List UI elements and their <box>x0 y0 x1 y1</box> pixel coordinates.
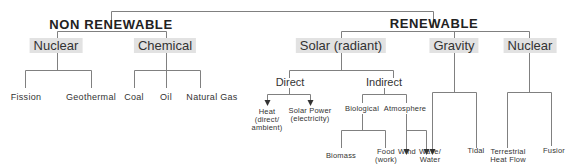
leaf-natural-gas: Natural Gas <box>186 93 237 102</box>
category-gravity: Gravity <box>429 38 478 53</box>
category-nuclear-nonrenewable: Nuclear <box>30 38 83 53</box>
leaf-fusion: Fusior <box>543 147 565 155</box>
leaf-coal: Coal <box>124 93 144 102</box>
leaf-tidal: Tidal <box>468 147 485 155</box>
leaf-heat: Heat (direct/ ambient) <box>252 108 283 132</box>
energy-sources-diagram: NON RENEWABLE RENEWABLE Nuclear Chemical… <box>0 0 582 166</box>
leaf-solar-power: Solar Power (electricity) <box>288 107 331 123</box>
category-nuclear-renewable: Nuclear <box>504 38 557 53</box>
sub-indirect: Indirect <box>366 77 402 88</box>
category-solar: Solar (radiant) <box>296 38 386 53</box>
leaf-wave-water: Wave/ Water <box>419 148 441 164</box>
leaf-biomass: Biomass <box>326 152 356 160</box>
leaf-terrestrial-heat-flow: Terrestrial Heat Flow <box>490 148 526 164</box>
renewable-heading: RENEWABLE <box>390 17 478 30</box>
leaf-fission: Fission <box>11 93 42 102</box>
sub-atmosphere: Atmosphere <box>384 105 426 113</box>
category-chemical: Chemical <box>134 38 196 53</box>
leaf-oil: Oil <box>160 93 172 102</box>
leaf-wind: Wind <box>398 148 416 156</box>
leaf-food: Food (work) <box>375 148 397 164</box>
leaf-geothermal: Geothermal <box>66 93 116 102</box>
non-renewable-heading: NON RENEWABLE <box>49 18 172 31</box>
sub-direct: Direct <box>276 77 305 88</box>
sub-biological: Biological <box>345 105 379 113</box>
